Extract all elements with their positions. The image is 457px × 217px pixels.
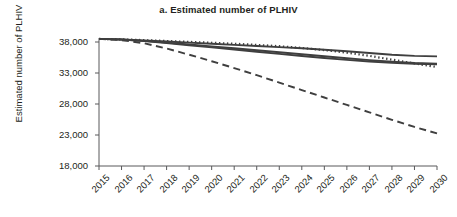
series-line-scenario-2-solid-middle — [99, 39, 437, 64]
data-series-lines — [99, 39, 437, 134]
chart-figure: a. Estimated number of PLHIV Estimated n… — [0, 0, 457, 217]
y-axis-ticks — [95, 42, 99, 166]
axis-lines — [99, 38, 437, 166]
x-axis-ticks — [99, 166, 437, 170]
